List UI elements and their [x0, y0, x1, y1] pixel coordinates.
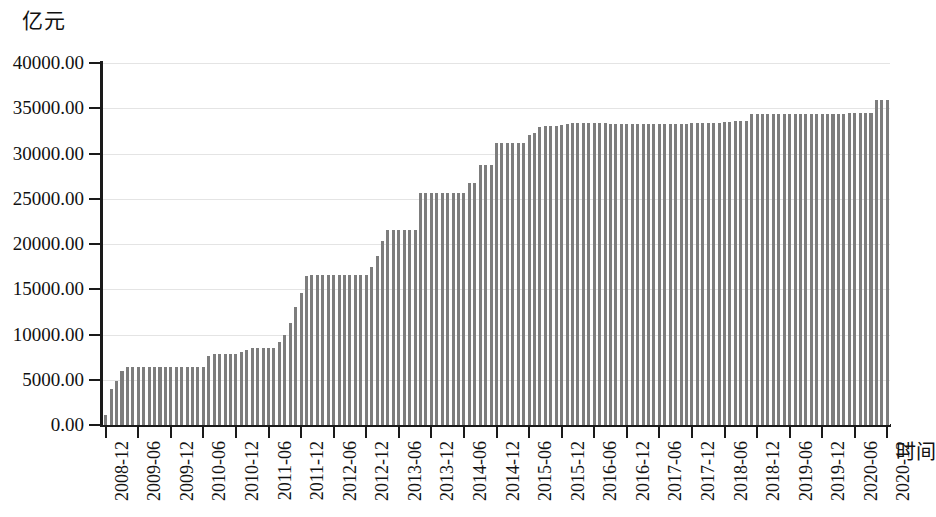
bar [593, 123, 596, 425]
bar [473, 183, 476, 425]
bar [766, 114, 769, 425]
bar [430, 193, 433, 425]
bar [267, 348, 270, 425]
bar [245, 350, 248, 425]
gridline [103, 63, 890, 64]
bar [853, 113, 856, 425]
y-tick-mark [89, 424, 101, 426]
bar [441, 193, 444, 425]
bar [701, 123, 704, 425]
bar [359, 275, 362, 425]
x-tick-mark [886, 427, 888, 438]
y-tick-mark [89, 288, 101, 290]
gridline [103, 108, 890, 109]
bar [652, 124, 655, 425]
x-tick-label: 2012-06 [341, 441, 359, 501]
bar [305, 276, 308, 425]
x-tick-mark [496, 427, 498, 438]
x-tick-mark [268, 427, 270, 438]
y-tick-label: 0.00 [51, 415, 84, 434]
y-tick-mark [89, 243, 101, 245]
bar [180, 367, 183, 425]
bar [750, 114, 753, 425]
bar [120, 371, 123, 425]
bar [799, 114, 802, 425]
bar [604, 123, 607, 425]
bar [718, 123, 721, 425]
bar [213, 354, 216, 426]
bar [104, 415, 107, 425]
bar [869, 113, 872, 425]
bar [131, 367, 134, 425]
bar [620, 124, 623, 425]
x-tick-mark [398, 427, 400, 438]
x-tick-label: 2016-06 [601, 441, 619, 501]
bar [468, 183, 471, 425]
x-tick-mark [202, 427, 204, 438]
bar [642, 124, 645, 425]
bar [403, 230, 406, 425]
bar [234, 354, 237, 426]
bar [772, 114, 775, 425]
bar [587, 123, 590, 425]
bar [886, 100, 889, 425]
y-tick-label: 5000.00 [22, 370, 84, 389]
bar [414, 230, 417, 425]
bar [419, 193, 422, 425]
bar [631, 124, 634, 425]
y-tick-mark [89, 198, 101, 200]
bar [490, 165, 493, 425]
bar [538, 127, 541, 425]
x-tick-mark [821, 427, 823, 438]
x-tick-mark [170, 427, 172, 438]
bar [528, 135, 531, 425]
x-tick-mark [365, 427, 367, 438]
bar [316, 275, 319, 425]
x-tick-label: 2017-06 [666, 441, 684, 501]
x-tick-mark [658, 427, 660, 438]
bar [614, 124, 617, 425]
bar [294, 307, 297, 425]
bar [153, 367, 156, 425]
x-tick-mark [561, 427, 563, 438]
bar [783, 114, 786, 425]
bar [576, 123, 579, 425]
bar [457, 193, 460, 425]
bar [424, 193, 427, 425]
y-tick-label: 20000.00 [13, 234, 84, 253]
bar [728, 122, 731, 425]
bar [723, 122, 726, 425]
x-tick-mark [463, 427, 465, 438]
x-tick-label: 2009-12 [178, 441, 196, 501]
bar [690, 123, 693, 425]
bar [658, 124, 661, 425]
bar [251, 348, 254, 425]
y-tick-label: 10000.00 [13, 325, 84, 344]
x-tick-label: 2019-12 [829, 441, 847, 501]
x-tick-label: 2012-12 [373, 441, 391, 501]
bar [479, 165, 482, 425]
bar [821, 114, 824, 425]
bar [745, 121, 748, 425]
bar [175, 367, 178, 425]
x-tick-label: 2020-06 [862, 441, 880, 501]
x-tick-mark [691, 427, 693, 438]
x-tick-label: 2015-12 [569, 441, 587, 501]
bar [169, 367, 172, 425]
bar [712, 123, 715, 425]
bar [777, 114, 780, 425]
x-tick-label: 2016-12 [634, 441, 652, 501]
bar [224, 354, 227, 426]
bar [734, 121, 737, 425]
bar [283, 335, 286, 425]
y-tick-mark [89, 107, 101, 109]
bar [788, 114, 791, 425]
bar [196, 367, 199, 425]
bar [609, 124, 612, 425]
bar [240, 352, 243, 425]
bar [625, 124, 628, 425]
bar [186, 367, 189, 425]
bar [685, 124, 688, 425]
bar [669, 124, 672, 425]
